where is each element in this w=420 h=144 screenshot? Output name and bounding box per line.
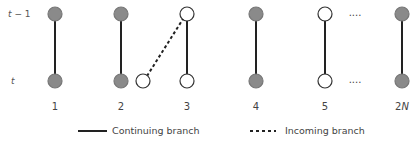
column-label: 5: [322, 101, 328, 112]
lineage-node-top: [48, 7, 62, 21]
lineage-columns: 123452N: [48, 7, 409, 112]
lineage-node-bottom: [395, 74, 409, 88]
ellipsis-bottom: ....: [349, 74, 362, 85]
row-label-t-minus-1: t − 1: [8, 9, 31, 19]
ellipsis-top: ....: [349, 7, 362, 18]
column-label: 2N: [395, 101, 409, 112]
lineage-node-top: [114, 7, 128, 21]
column-label: 2: [118, 101, 124, 112]
lineage-node-bottom: [48, 74, 62, 88]
coalescent-diagram: t − 1 t 123452N .... .... Continuing bra…: [0, 0, 420, 144]
lineage-node-bottom: [114, 74, 128, 88]
row-label-t: t: [11, 76, 15, 86]
lineage-node-top: [249, 7, 263, 21]
lineage-node-bottom: [318, 74, 332, 88]
column-label: 3: [184, 101, 190, 112]
lineage-node-bottom: [249, 74, 263, 88]
lineage-node-bottom: [180, 74, 194, 88]
legend-incoming-label: Incoming branch: [285, 125, 365, 136]
incoming-branch-line: [147, 19, 183, 76]
lineage-node-top: [395, 7, 409, 21]
column-label: 4: [253, 101, 259, 112]
lineage-node-top: [318, 7, 332, 21]
incoming-node: [136, 74, 150, 88]
legend: Continuing branch Incoming branch: [78, 125, 365, 136]
legend-continuing-label: Continuing branch: [112, 125, 200, 136]
column-label: 1: [52, 101, 58, 112]
